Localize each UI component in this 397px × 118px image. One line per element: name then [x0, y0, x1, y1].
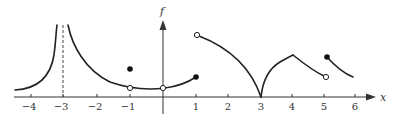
curve-final-segment	[327, 57, 353, 77]
tick-label: 4	[289, 101, 295, 112]
tick-label: 1	[193, 101, 199, 112]
curve-right-branch	[68, 25, 196, 89]
open-dot-x-minus-1	[127, 85, 132, 90]
y-axis-label: f	[159, 5, 166, 18]
tick-label: 6	[352, 101, 358, 112]
tick-label: −1	[121, 101, 136, 112]
filled-dot-x-1	[193, 74, 199, 80]
tick-label: 2	[225, 101, 231, 112]
curves	[15, 25, 353, 97]
tick-label: −4	[22, 101, 37, 112]
function-graph: x f −4 −3 −2 −1 1 2 3 4 5 6	[0, 0, 397, 118]
open-dot-x-0	[160, 85, 165, 90]
curve-rising-segment	[261, 55, 293, 97]
x-axis-arrow-icon	[366, 94, 376, 101]
tick-label: −2	[88, 101, 103, 112]
tick-label: −3	[54, 101, 69, 112]
points	[127, 32, 330, 90]
curve-segment-4-to-5	[293, 55, 324, 76]
tick-label: 5	[321, 101, 327, 112]
curve-left-branch	[15, 25, 57, 90]
y-axis: f	[159, 5, 167, 114]
filled-dot-x-5	[324, 54, 330, 60]
y-axis-arrow-icon	[160, 20, 167, 30]
filled-dot-x-minus-1	[127, 66, 133, 72]
x-axis-label: x	[380, 91, 387, 104]
x-axis: x	[14, 91, 387, 104]
open-dot-x-5	[323, 74, 328, 79]
x-tick-labels: −4 −3 −2 −1 1 2 3 4 5 6	[22, 101, 359, 112]
curve-descending-arc	[199, 36, 261, 97]
tick-label: 3	[258, 101, 264, 112]
open-dot-x-1	[194, 32, 199, 37]
